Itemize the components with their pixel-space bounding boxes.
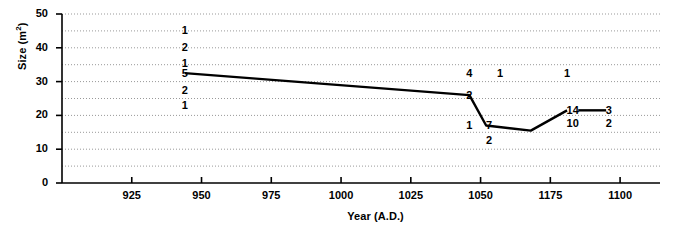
y-tick-label: 50 <box>14 8 48 19</box>
x-tick-label: 925 <box>102 190 162 201</box>
y-tick-label: 0 <box>14 177 48 188</box>
data-count-label: 1 <box>175 25 195 36</box>
y-axis-ticks <box>56 14 62 183</box>
x-axis-ticks <box>132 177 620 183</box>
data-count-label: 2 <box>175 42 195 53</box>
y-tick-label: 40 <box>14 42 48 53</box>
chart-figure: Size (m2) Year (A.D.) 01020304050 925950… <box>0 0 675 236</box>
data-count-label: 1 <box>490 68 510 79</box>
y-tick-label: 30 <box>14 76 48 87</box>
x-tick-label: 1050 <box>451 190 511 201</box>
data-count-label: 1 <box>459 120 479 131</box>
x-tick-label: 1000 <box>311 190 371 201</box>
x-tick-label: 1025 <box>381 190 441 201</box>
x-tick-label: 1100 <box>590 190 650 201</box>
data-count-label: 2 <box>175 85 195 96</box>
x-tick-label: 975 <box>241 190 301 201</box>
data-count-label: 2 <box>459 90 479 101</box>
gridlines <box>62 14 662 166</box>
data-count-label: 4 <box>459 68 479 79</box>
x-tick-label: 1175 <box>520 190 580 201</box>
data-count-label: 3 <box>599 105 619 116</box>
data-count-label: 10 <box>563 118 583 129</box>
data-count-label: 14 <box>563 105 583 116</box>
x-tick-label: 950 <box>172 190 232 201</box>
y-tick-label: 10 <box>14 143 48 154</box>
data-count-label: 1 <box>557 68 577 79</box>
data-count-label: 7 <box>479 120 499 131</box>
data-count-label: 2 <box>599 118 619 129</box>
y-tick-label: 20 <box>14 109 48 120</box>
data-count-label: 2 <box>479 135 499 146</box>
data-count-label: 1 <box>175 100 195 111</box>
data-count-label: 5 <box>175 68 195 79</box>
